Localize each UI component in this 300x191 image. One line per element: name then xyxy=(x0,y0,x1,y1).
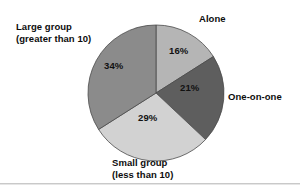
pie-value-alone: 16% xyxy=(169,45,188,56)
pie-value-large-group: 34% xyxy=(104,60,123,71)
pie-label-large-group-line1: Large group xyxy=(16,21,72,32)
pie-label-large-group: Large group (greater than 10) xyxy=(16,21,91,44)
pie-label-small-group-line1: Small group xyxy=(112,157,167,168)
pie-label-small-group: Small group (less than 10) xyxy=(112,157,173,180)
pie-value-small-group: 29% xyxy=(138,112,157,123)
pie-label-alone-line1: Alone xyxy=(199,13,226,24)
pie-label-alone: Alone xyxy=(199,13,226,25)
pie-label-small-group-line2: (less than 10) xyxy=(112,169,173,181)
pie-label-large-group-line2: (greater than 10) xyxy=(16,33,91,45)
pie-chart-figure: 16% 21% 29% 34% Alone One-on-one Small g… xyxy=(0,0,300,191)
figure-bottom-rule-shadow xyxy=(0,184,300,185)
pie-label-one-on-one-line1: One-on-one xyxy=(228,91,282,102)
pie-value-one-on-one: 21% xyxy=(180,82,199,93)
pie-label-one-on-one: One-on-one xyxy=(228,91,282,103)
